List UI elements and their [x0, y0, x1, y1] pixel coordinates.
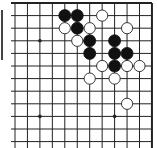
white-stone[interactable]	[109, 73, 120, 84]
star-point	[38, 39, 42, 43]
white-stone[interactable]	[84, 23, 95, 34]
black-stone[interactable]	[59, 10, 71, 22]
white-stone[interactable]	[59, 23, 70, 34]
black-stone[interactable]	[71, 10, 83, 22]
white-stone[interactable]	[121, 60, 132, 71]
white-stone[interactable]	[97, 60, 108, 71]
white-stone[interactable]	[84, 73, 95, 84]
white-stone[interactable]	[134, 60, 145, 71]
black-stone[interactable]	[84, 47, 96, 59]
go-board[interactable]	[0, 0, 157, 148]
black-stone[interactable]	[84, 35, 96, 47]
black-stone[interactable]	[121, 47, 133, 59]
star-point	[113, 115, 117, 119]
white-stone[interactable]	[121, 98, 132, 109]
black-stone[interactable]	[71, 22, 83, 34]
white-stone[interactable]	[97, 10, 108, 21]
black-stone[interactable]	[109, 47, 121, 59]
black-stone[interactable]	[109, 35, 121, 47]
white-stone[interactable]	[72, 35, 83, 46]
black-stone[interactable]	[109, 60, 121, 72]
white-stone[interactable]	[121, 23, 132, 34]
star-point	[38, 115, 42, 119]
